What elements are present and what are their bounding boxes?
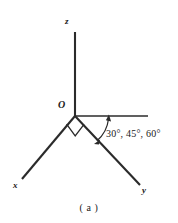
z-axis-label: z (65, 17, 69, 26)
coordinate-axes-diagram (0, 0, 178, 223)
origin-label: O (58, 100, 65, 110)
x-axis-label: x (13, 181, 18, 190)
right-angle-marker (67, 124, 84, 136)
angle-annotation-label: 30°, 45°, 60° (106, 129, 161, 139)
figure-caption: ( a ) (0, 202, 178, 213)
figure-container: z O x y 30°, 45°, 60° ( a ) (0, 0, 178, 223)
y-axis-label: y (142, 186, 146, 195)
